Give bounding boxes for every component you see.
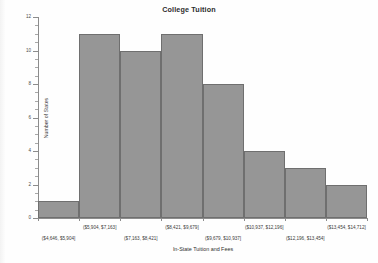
scan-edge-artifact: [0, 0, 6, 263]
x-tick-mark: [203, 218, 204, 221]
x-tick-mark: [326, 218, 327, 221]
y-tick-label: 4: [17, 148, 31, 153]
x-axis-title: In-State Tuition and Fees: [38, 246, 368, 252]
x-tick-mark: [244, 218, 245, 221]
x-tick-mark: [367, 218, 368, 221]
y-tick-label: 0: [17, 215, 31, 220]
x-tick-mark: [161, 218, 162, 221]
x-tick-mark: [79, 218, 80, 221]
histogram-bar: [79, 34, 120, 218]
y-tick-label: 8: [17, 81, 31, 86]
x-tick-label: ($4,646, $5,904]: [42, 236, 75, 241]
chart-screenshot: College Tuition 024681012 Number of Stat…: [0, 0, 378, 263]
histogram-bar: [161, 34, 202, 218]
x-tick-label: ($9,679, $10,937]: [205, 236, 241, 241]
x-tick-label: ($12,196, $13,454]: [286, 236, 325, 241]
y-tick-label: 6: [17, 115, 31, 120]
x-tick-mark: [120, 218, 121, 221]
x-tick-label: ($8,421, $9,679]: [165, 225, 198, 230]
x-tick-label: ($10,937, $12,196]: [245, 225, 284, 230]
x-tick-mark: [285, 218, 286, 221]
x-tick-mark: [38, 218, 39, 221]
chart-title: College Tuition: [0, 5, 378, 14]
histogram-bar: [244, 151, 285, 218]
y-tick-label: 2: [17, 182, 31, 187]
histogram-bar: [120, 51, 161, 219]
histogram-bar: [285, 168, 326, 218]
histogram-bar: [326, 185, 367, 219]
histogram-bar: [203, 84, 244, 218]
y-tick-label: 10: [17, 48, 31, 53]
x-tick-label: ($13,454, $14,712]: [327, 225, 366, 230]
histogram-bar: [38, 201, 79, 218]
y-tick-label: 12: [17, 14, 31, 19]
plot-area: Number of States: [38, 17, 367, 218]
histogram-bars: [38, 17, 367, 218]
x-tick-label: ($7,163, $8,421]: [124, 236, 157, 241]
x-tick-label: ($5,904, $7,163]: [83, 225, 116, 230]
